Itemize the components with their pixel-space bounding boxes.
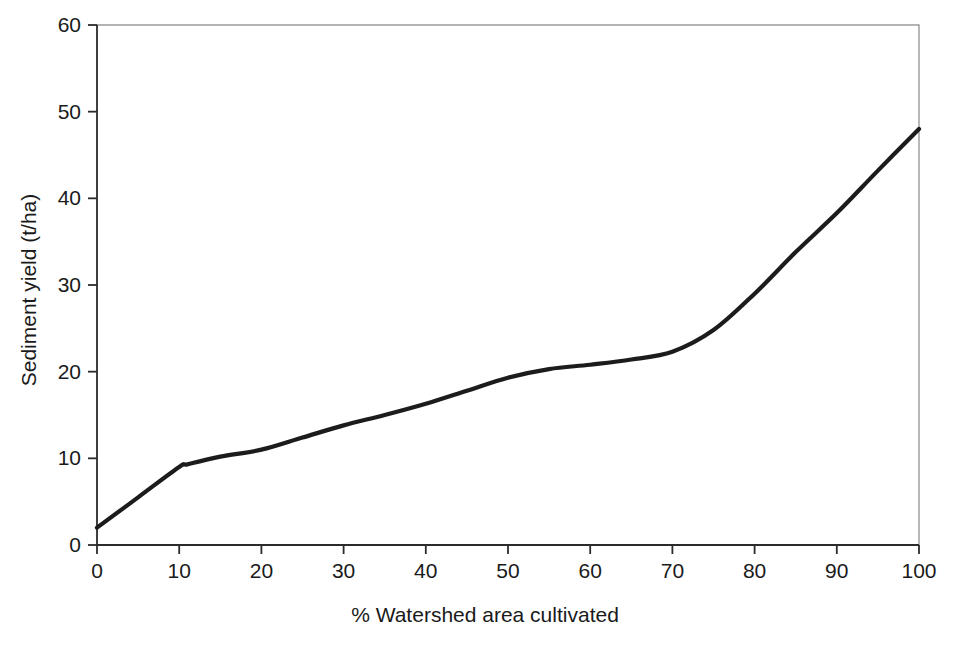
x-axis-title: % Watershed area cultivated bbox=[351, 603, 619, 626]
y-tick-label: 10 bbox=[58, 446, 81, 469]
y-tick-label: 60 bbox=[58, 13, 81, 36]
y-tick-label: 50 bbox=[58, 100, 81, 123]
x-tick-label: 20 bbox=[250, 559, 273, 582]
chart-page: 0102030405060 0102030405060708090100 % W… bbox=[0, 0, 955, 648]
x-tick-label: 100 bbox=[901, 559, 936, 582]
x-tick-label: 50 bbox=[496, 559, 519, 582]
x-tick-label: 90 bbox=[825, 559, 848, 582]
y-tick-label: 0 bbox=[69, 533, 81, 556]
x-axis-tick-labels: 0102030405060708090100 bbox=[91, 559, 936, 582]
x-tick-label: 60 bbox=[579, 559, 602, 582]
y-axis-tickmarks bbox=[88, 25, 97, 545]
x-tick-label: 10 bbox=[168, 559, 191, 582]
y-tick-label: 20 bbox=[58, 360, 81, 383]
y-axis-tick-labels: 0102030405060 bbox=[58, 13, 81, 556]
y-tick-label: 30 bbox=[58, 273, 81, 296]
x-tick-label: 0 bbox=[91, 559, 103, 582]
x-axis-tickmarks bbox=[97, 545, 919, 554]
x-tick-label: 30 bbox=[332, 559, 355, 582]
x-tick-label: 40 bbox=[414, 559, 437, 582]
plot-frame bbox=[97, 25, 919, 545]
plot-frame-light-border bbox=[97, 25, 919, 545]
line-chart-figure: 0102030405060 0102030405060708090100 % W… bbox=[0, 0, 955, 648]
x-tick-label: 80 bbox=[743, 559, 766, 582]
y-tick-label: 40 bbox=[58, 186, 81, 209]
data-series-line bbox=[97, 129, 919, 528]
y-axis-title: Sediment yield (t/ha) bbox=[17, 194, 40, 387]
chart-canvas: 0102030405060 0102030405060708090100 % W… bbox=[0, 0, 955, 648]
x-tick-label: 70 bbox=[661, 559, 684, 582]
